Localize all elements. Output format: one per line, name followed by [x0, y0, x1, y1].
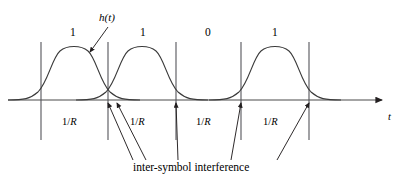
bit-label-2: 0	[205, 27, 211, 39]
symbol-duration-symbol: R	[70, 116, 76, 127]
isi-leader-line	[108, 103, 133, 160]
bit-label-3: 1	[272, 27, 278, 39]
symbol-duration-prefix: 1/	[196, 116, 204, 127]
pulse-curve-bit2	[76, 47, 208, 101]
pulse-curve-bit4	[209, 47, 341, 101]
pulse-curve-bit1	[8, 47, 140, 101]
symbol-duration-prefix: 1/	[263, 116, 271, 127]
symbol-duration-label-2: 1/R	[196, 117, 211, 128]
isi-leader-line	[231, 103, 241, 160]
symbol-duration-symbol: R	[271, 116, 277, 127]
axis-label-t: t	[388, 112, 391, 123]
isi-figure: h(t) 1 1 0 1 1/R 1/R 1/R 1/R t inter-sym…	[0, 0, 409, 182]
isi-sample-markers	[108, 103, 309, 160]
bit-label-0: 1	[70, 27, 76, 39]
isi-leader-line	[277, 103, 309, 160]
symbol-duration-label-0: 1/R	[62, 117, 77, 128]
symbol-duration-prefix: 1/	[130, 116, 138, 127]
function-callout-arrow	[90, 27, 108, 52]
function-label-ht: h(t)	[99, 12, 115, 23]
bit-label-1: 1	[140, 27, 146, 39]
symbol-duration-label-3: 1/R	[263, 117, 278, 128]
symbol-duration-symbol: R	[138, 116, 144, 127]
pulse-waveforms	[8, 47, 341, 101]
symbol-duration-symbol: R	[204, 116, 210, 127]
isi-leader-line	[117, 103, 146, 160]
symbol-duration-label-1: 1/R	[130, 117, 145, 128]
isi-caption: inter-symbol interference	[133, 162, 249, 174]
symbol-duration-prefix: 1/	[62, 116, 70, 127]
